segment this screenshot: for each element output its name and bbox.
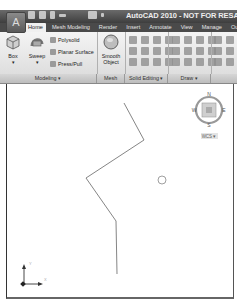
planar-surface-button[interactable]: Planar Surface [50, 49, 94, 55]
ucs-y-label: Y [29, 261, 32, 266]
solid-edit-tool-icon[interactable] [153, 47, 161, 55]
solid-edit-tool-icon[interactable] [129, 58, 137, 66]
window-title: AutoCAD 2010 - NOT FOR RESALE Dra [126, 11, 237, 20]
panel-draw[interactable]: Draw ▾ [168, 74, 211, 83]
drawing-geometry: N S E W WCS ▾ Y X [7, 84, 233, 297]
tab-output[interactable]: Output [228, 23, 237, 32]
smooth-object-icon [103, 34, 119, 50]
tab-annotate[interactable]: Annotate [146, 23, 174, 32]
polyline-icon[interactable] [172, 47, 180, 55]
line-icon[interactable] [184, 47, 192, 55]
solid-edit-tool-icon[interactable] [141, 47, 149, 55]
wcs-menu[interactable]: WCS ▾ [202, 134, 217, 139]
circle-entity[interactable] [158, 176, 166, 184]
panel-modeling[interactable]: Modeling ▾ [0, 74, 97, 83]
solid-edit-tool-icon[interactable] [153, 36, 161, 44]
draw-tool-icon[interactable] [184, 36, 192, 44]
panel-mesh[interactable]: Mesh [97, 74, 126, 83]
ucs-x-label: X [44, 277, 47, 282]
solid-edit-tool-icon[interactable] [141, 36, 149, 44]
compass-west-label[interactable]: W [192, 107, 197, 113]
modify-tool-icon[interactable] [214, 47, 222, 55]
drawing-canvas[interactable]: N S E W WCS ▾ Y X [6, 84, 234, 299]
quick-access-toolbar [28, 11, 104, 19]
tab-render[interactable]: Render [96, 23, 120, 32]
ucs-icon: Y X [20, 261, 47, 287]
modify-tool-icon[interactable] [226, 58, 234, 66]
tab-home[interactable]: Home [25, 23, 46, 32]
modify-tool-icon[interactable] [226, 47, 234, 55]
panel-solid-editing[interactable]: Solid Editing ▾ [125, 74, 167, 83]
save-icon[interactable] [50, 11, 55, 19]
planar-surface-icon [50, 49, 56, 55]
polysolid-button[interactable]: Polysolid [50, 37, 80, 43]
tab-insert[interactable]: Insert [123, 23, 143, 32]
solid-edit-tool-icon[interactable] [129, 47, 137, 55]
dropdown-icon[interactable] [101, 13, 104, 17]
autocad-logo-icon: A [12, 16, 19, 28]
box-icon [5, 34, 21, 50]
polysolid-icon [50, 37, 56, 43]
viewcube[interactable]: N S E W [192, 91, 227, 128]
compass-east-label[interactable]: E [222, 107, 226, 113]
application-menu-button[interactable]: A [6, 12, 26, 33]
solid-edit-tool-icon[interactable] [153, 58, 161, 66]
modify-tool-icon[interactable] [226, 36, 234, 44]
undo-icon[interactable] [59, 14, 66, 17]
box-button[interactable]: Box ▾ [4, 34, 22, 65]
open-icon[interactable] [39, 11, 46, 19]
tab-mesh-modeling[interactable]: Mesh Modeling [49, 23, 93, 32]
draw-tool-icon[interactable] [172, 58, 180, 66]
sweep-icon [29, 34, 45, 50]
presspull-icon [50, 61, 56, 67]
sweep-button[interactable]: Sweep ▾ [26, 34, 48, 65]
polyline-entity[interactable] [86, 103, 144, 274]
tab-manage[interactable]: Manage [199, 23, 225, 32]
ribbon-panel-labels: Modeling ▾ Mesh Solid Editing ▾ Draw ▾ [0, 74, 237, 84]
solid-edit-tool-icon[interactable] [129, 36, 137, 44]
compass-north-label[interactable]: N [207, 91, 211, 97]
line-icon[interactable] [196, 36, 204, 44]
smooth-object-button[interactable]: Smooth Object [99, 34, 123, 65]
circle-icon[interactable] [196, 47, 204, 55]
draw-tool-icon[interactable] [196, 58, 204, 66]
plot-icon[interactable] [88, 11, 97, 19]
ribbon-tabs: Home Mesh Modeling Render Insert Annotat… [25, 23, 237, 32]
presspull-button[interactable]: Press/Pull [50, 61, 82, 67]
panel-modify[interactable] [211, 74, 237, 83]
modify-tools [214, 36, 235, 66]
modify-tool-icon[interactable] [214, 58, 222, 66]
draw-tool-icon[interactable] [172, 36, 180, 44]
solid-edit-tool-icon[interactable] [141, 58, 149, 66]
rectangle-icon[interactable] [184, 58, 192, 66]
tab-view[interactable]: View [178, 23, 196, 32]
new-icon[interactable] [28, 11, 35, 19]
modify-tool-icon[interactable] [214, 36, 222, 44]
